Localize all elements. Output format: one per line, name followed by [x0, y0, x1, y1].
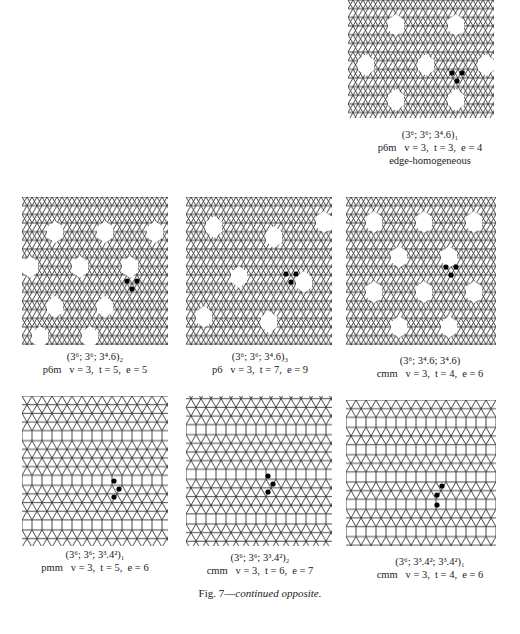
tiling-diagram	[186, 396, 332, 546]
tiling-diagram	[22, 197, 168, 345]
tiling-diagram	[22, 396, 168, 546]
tiling-diagram	[346, 197, 496, 345]
symmetry-group: p6m	[378, 142, 397, 153]
tiling-name: (3⁶; 3⁶; 3³.4²)₂	[175, 551, 345, 564]
tiling-note: edge-homogeneous	[340, 154, 520, 167]
figure-caption: Fig. 7—continued opposite.	[0, 587, 520, 599]
tiling-params: v = 3, t = 6, e = 7	[236, 565, 314, 576]
symmetry-group: cmm	[377, 569, 398, 580]
tiling-params: v = 3, t = 4, e = 6	[406, 368, 484, 379]
symmetry-group: cmm	[377, 368, 398, 379]
tiling-diagram	[186, 197, 332, 345]
tiling-name: (3⁶; 3⁶; 3³.4²)₁	[10, 548, 180, 561]
tiling-params: v = 3, t = 5, e = 6	[71, 562, 149, 573]
tiling-name: (3⁶; 3⁶; 3⁴.6)₂	[10, 350, 180, 363]
tiling-params: v = 3, t = 7, e = 9	[230, 364, 308, 375]
tiling-name: (3⁶; 3⁶; 3⁴.6)₃	[175, 350, 345, 363]
tiling-name: (3⁶; 3⁶; 3⁴.6)₁	[340, 128, 520, 141]
symmetry-group: p6m	[43, 364, 62, 375]
tiling-params: v = 3, t = 3, e = 4	[404, 142, 482, 153]
tiling-name: (3⁶; 3⁴.6; 3⁴.6)	[340, 354, 520, 367]
tiling-diagram	[346, 400, 496, 546]
tiling-params: v = 3, t = 4, e = 6	[406, 569, 484, 580]
tiling-params: v = 3, t = 5, e = 5	[69, 364, 147, 375]
symmetry-group: p6	[212, 364, 223, 375]
symmetry-group: cmm	[207, 565, 228, 576]
symmetry-group: pmm	[41, 562, 63, 573]
tiling-name: (3⁶; 3³.4²; 3³.4²)₁	[340, 555, 520, 568]
tiling-diagram	[348, 0, 494, 118]
